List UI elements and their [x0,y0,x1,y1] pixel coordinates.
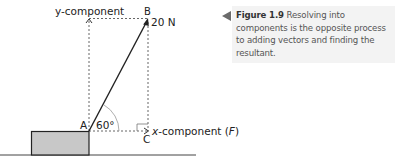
x-component-text: -component ( [158,125,229,137]
point-b-label: B [144,7,151,17]
angle-label: 60° [96,120,115,131]
figure-number: Figure 1.9 [236,10,284,20]
point-c-label: C [143,134,150,145]
y-component-label: y-component [55,6,124,17]
force-magnitude-label: 20 N [151,17,176,28]
figure-caption: Figure 1.9 Resolving into components is … [236,9,396,59]
point-a-label: A [80,120,87,131]
caption-pointer-icon [222,11,231,21]
x-component-close: ) [235,125,239,137]
block [32,132,90,156]
x-component-label: x-component (F) [152,126,239,137]
force-vector-line [89,21,147,131]
force-vector-arrowhead-icon [143,18,149,26]
